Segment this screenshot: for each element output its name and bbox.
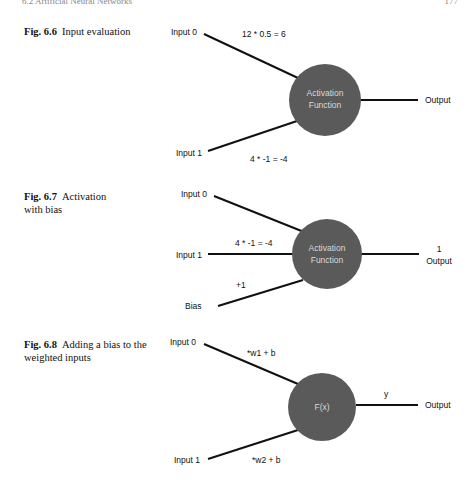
- node-label-line2: Function: [309, 100, 342, 110]
- diagram-fig-6-6: Input 0 12 * 0.5 = 6 Input 1 4 * -1 = -4…: [171, 27, 451, 164]
- edge-bias: [218, 280, 303, 306]
- node-label-line1: Activation: [309, 243, 346, 253]
- input-1-weight: 4 * -1 = -4: [250, 154, 288, 164]
- output-value: y: [384, 389, 389, 399]
- node-label: F(x): [314, 402, 329, 412]
- activation-node: [292, 219, 362, 289]
- diagram-fig-6-7: Input 0 Input 1 4 * -1 = -4 Bias +1 Acti…: [176, 189, 452, 311]
- input-0-label: Input 0: [170, 337, 196, 347]
- bias-label: Bias: [185, 301, 202, 311]
- node-label-line1: Activation: [307, 88, 344, 98]
- input-0-weight: 12 * 0.5 = 6: [242, 29, 286, 39]
- node-label-line2: Function: [311, 255, 344, 265]
- output-value: 1: [437, 244, 442, 254]
- input-1-label: Input 1: [176, 250, 202, 260]
- diagram-fig-6-8: Input 0 *w1 + b Input 1 *w2 + b F(x) y O…: [170, 337, 451, 465]
- bias-weight: +1: [236, 280, 246, 290]
- input-1-weight: *w2 + b: [252, 455, 281, 465]
- input-1-label: Input 1: [174, 455, 200, 465]
- input-0-weight: *w1 + b: [247, 348, 276, 358]
- edge-input-1: [208, 121, 297, 151]
- input-0-label: Input 0: [171, 27, 197, 37]
- output-label: Output: [425, 95, 451, 105]
- neural-network-figures: Input 0 12 * 0.5 = 6 Input 1 4 * -1 = -4…: [0, 0, 472, 483]
- output-label: Output: [426, 256, 452, 266]
- edge-input-0: [214, 196, 304, 232]
- input-0-label: Input 0: [181, 189, 207, 199]
- edge-input-0: [204, 34, 298, 78]
- output-label: Output: [425, 400, 451, 410]
- input-1-weight: 4 * -1 = -4: [235, 238, 273, 248]
- input-1-label: Input 1: [176, 148, 202, 158]
